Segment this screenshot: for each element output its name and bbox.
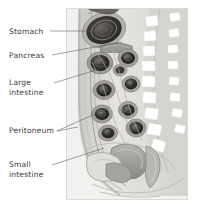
anatomy-figure: Stomach Pancreas Large intestine Periton… [0,0,197,213]
label-pancreas: Pancreas [9,51,44,60]
bowel-loop [87,52,113,74]
label-stomach: Stomach [9,27,44,36]
illustration-panel [66,7,188,200]
figure-canvas: Stomach Pancreas Large intestine Periton… [0,0,197,213]
label-peritoneum: Peritoneum [9,126,54,135]
bowel-loop [99,125,118,141]
bowel-loop [122,76,140,92]
bowel-loop [93,81,115,100]
